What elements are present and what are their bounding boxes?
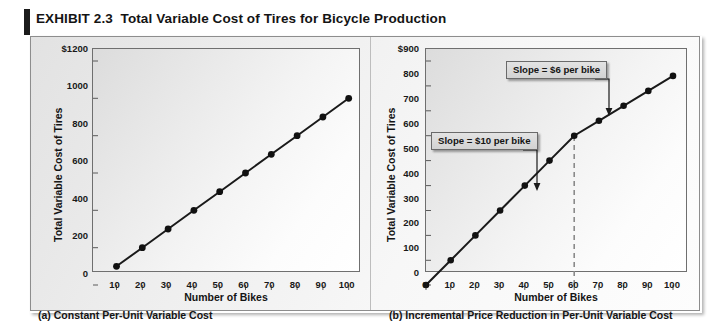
exhibit-title: Total Variable Cost of Tires for Bicycle… — [121, 11, 447, 26]
panel-a-xtick-50: 50 — [206, 279, 230, 290]
panel-b-xtick-20: 20 — [462, 279, 486, 290]
panel-b-xtick-0: 0 — [413, 279, 437, 290]
callout-slope-6: Slope = $6 per bike — [506, 61, 607, 79]
exhibit-accent-bar — [24, 9, 30, 35]
panel-b-x-axis-label: Number of Bikes — [476, 291, 636, 303]
panel-a: Total Variable Cost of Tires $1200 1000 … — [30, 36, 370, 311]
panel-a-xtick-70: 70 — [257, 279, 281, 290]
panel-b-ytick-200: 200 — [377, 217, 419, 228]
panel-b-caption: (b) Incremental Price Reduction in Per-U… — [389, 309, 673, 321]
panel-b-ytick-800: 800 — [377, 68, 419, 79]
callout-slope-10: Slope = $10 per bike — [431, 132, 538, 150]
panel-b-plot-area — [425, 48, 687, 272]
panel-a-ytick-0: 0 — [44, 268, 88, 279]
panel-b-ytick-500: 500 — [377, 143, 419, 154]
panel-a-ytick-200: 200 — [44, 230, 88, 241]
panel-a-xtick-30: 30 — [154, 279, 178, 290]
panel-b-xtick-10: 10 — [438, 279, 462, 290]
panel-b-xtick-60: 60 — [561, 279, 585, 290]
panel-a-xtick-40: 40 — [180, 279, 204, 290]
panel-a-xtick-80: 80 — [283, 279, 307, 290]
panel-a-xtick-100: 100 — [335, 279, 359, 290]
panel-a-caption: (a) Constant Per-Unit Variable Cost — [38, 309, 212, 321]
exhibit-header: EXHIBIT 2.3 Total Variable Cost of Tires… — [36, 11, 446, 26]
panel-a-ytick-400: 400 — [44, 193, 88, 204]
panel-b-xtick-40: 40 — [512, 279, 536, 290]
panel-a-x-axis-label: Number of Bikes — [146, 291, 306, 303]
panel-b-ytick-400: 400 — [377, 168, 419, 179]
panel-a-ytick-1000: 1000 — [44, 80, 88, 91]
panel-b-xtick-80: 80 — [611, 279, 635, 290]
panel-a-xtick-20: 20 — [128, 279, 152, 290]
panel-b: Total Variable Cost of Tires $900 800 70… — [371, 36, 700, 311]
panel-a-ytick-800: 800 — [44, 118, 88, 129]
exhibit-figure: EXHIBIT 2.3 Total Variable Cost of Tires… — [0, 0, 718, 336]
panel-b-xtick-90: 90 — [635, 279, 659, 290]
panel-b-xtick-70: 70 — [586, 279, 610, 290]
exhibit-number: EXHIBIT 2.3 — [36, 11, 113, 26]
panel-b-ytick-100: 100 — [377, 242, 419, 253]
panel-a-ytick-1200: $1200 — [44, 43, 88, 54]
panel-a-ytick-600: 600 — [44, 155, 88, 166]
panel-b-ytick-300: 300 — [377, 193, 419, 204]
panel-b-xtick-50: 50 — [537, 279, 561, 290]
panel-b-ytick-0: 0 — [377, 267, 419, 278]
panel-a-xtick-90: 90 — [309, 279, 333, 290]
panel-a-xtick-10: 10 — [103, 279, 127, 290]
panel-a-plot-area — [92, 48, 360, 272]
panel-b-ytick-900: $900 — [377, 43, 419, 54]
panel-b-ytick-700: 700 — [377, 93, 419, 104]
panel-b-xtick-30: 30 — [487, 279, 511, 290]
panel-b-ytick-600: 600 — [377, 118, 419, 129]
panel-b-xtick-100: 100 — [660, 279, 684, 290]
panel-a-xtick-60: 60 — [232, 279, 256, 290]
